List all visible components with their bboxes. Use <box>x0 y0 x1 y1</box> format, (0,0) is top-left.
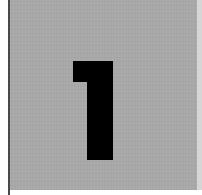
number-tile: 1 <box>0 0 202 195</box>
numeral-one-glyph: 1 <box>0 0 202 195</box>
numeral-one-icon: 1 <box>0 0 202 195</box>
